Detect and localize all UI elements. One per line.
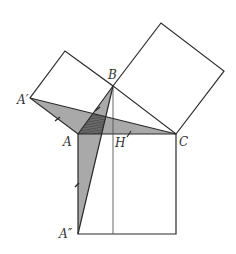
square-on-bc xyxy=(113,23,224,134)
label-b: B xyxy=(107,68,117,82)
label-a: A xyxy=(62,135,72,149)
label-a-prime: A′ xyxy=(16,93,29,107)
label-c: C xyxy=(179,135,188,149)
pythagoras-diagram: B A′ A H C A″ xyxy=(0,0,236,254)
label-a-double-prime: A″ xyxy=(58,227,73,241)
label-h: H xyxy=(114,136,126,150)
